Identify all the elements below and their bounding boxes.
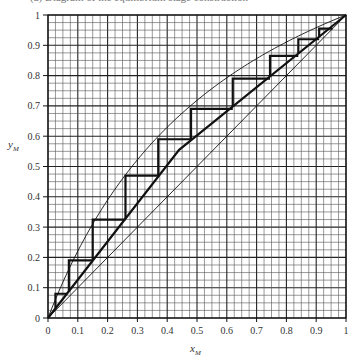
y-tick-label: 0.6 — [28, 131, 41, 142]
x-axis-ticks: 00.10.20.30.40.50.60.70.80.91 — [46, 318, 349, 336]
y-tick-label: 1 — [35, 10, 40, 21]
x-tick-label: 0.7 — [250, 325, 263, 336]
x-tick-label: 0.4 — [161, 325, 174, 336]
y-tick-label: 0.8 — [28, 70, 41, 81]
x-tick-label: 0.1 — [72, 325, 85, 336]
x-tick-label: 0.8 — [280, 325, 293, 336]
y-tick-label: 0.2 — [28, 252, 41, 263]
y-tick-label: 0.5 — [28, 161, 41, 172]
y-axis-ticks: 00.10.20.30.40.50.60.70.80.91 — [28, 10, 49, 324]
x-axis-label: xM — [189, 342, 202, 357]
y-axis-label: yM — [7, 138, 20, 153]
y-tick-label: 0.3 — [28, 222, 41, 233]
mccabe-thiele-chart: 00.10.20.30.40.50.60.70.80.91 00.10.20.3… — [0, 0, 357, 362]
x-tick-label: 0.9 — [310, 325, 323, 336]
y-tick-label: 0.1 — [28, 282, 41, 293]
x-tick-label: 0 — [46, 325, 51, 336]
x-tick-label: 0.3 — [131, 325, 144, 336]
y-tick-label: 0 — [35, 313, 40, 324]
x-tick-label: 0.6 — [221, 325, 234, 336]
y-tick-label: 0.7 — [28, 100, 41, 111]
y-tick-label: 0.4 — [28, 191, 41, 202]
x-tick-label: 0.2 — [101, 325, 114, 336]
y-tick-label: 0.9 — [28, 40, 41, 51]
x-tick-label: 0.5 — [191, 325, 204, 336]
x-tick-label: 1 — [344, 325, 349, 336]
